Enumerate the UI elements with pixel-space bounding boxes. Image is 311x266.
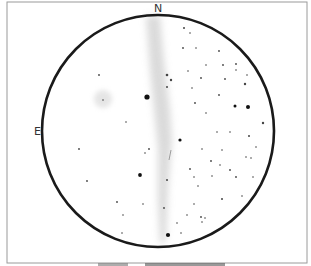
star xyxy=(211,175,213,177)
star xyxy=(125,121,127,123)
star xyxy=(250,157,252,159)
star xyxy=(121,232,123,234)
star xyxy=(144,94,149,99)
star xyxy=(138,173,142,177)
star xyxy=(229,169,231,171)
star xyxy=(246,105,250,109)
star xyxy=(166,86,168,88)
star xyxy=(189,32,191,34)
star xyxy=(235,176,237,178)
star xyxy=(234,105,237,108)
star xyxy=(245,156,247,158)
star xyxy=(222,64,224,66)
star xyxy=(219,164,221,166)
star xyxy=(182,47,184,49)
star xyxy=(195,47,197,49)
star xyxy=(116,201,118,203)
star xyxy=(122,214,124,216)
star xyxy=(98,74,100,76)
star xyxy=(201,221,203,223)
star xyxy=(170,79,172,81)
star xyxy=(197,185,199,187)
star xyxy=(78,148,80,150)
star xyxy=(144,152,146,154)
star xyxy=(262,122,264,124)
star xyxy=(218,50,220,52)
star xyxy=(193,203,195,205)
star xyxy=(166,233,170,237)
star xyxy=(148,148,150,150)
star xyxy=(235,69,237,71)
star xyxy=(224,78,226,80)
star xyxy=(166,74,169,77)
star xyxy=(255,146,257,148)
star xyxy=(221,198,223,200)
star xyxy=(241,195,243,197)
star xyxy=(166,179,168,181)
star xyxy=(205,112,207,114)
star xyxy=(229,131,231,133)
star xyxy=(142,203,144,205)
star xyxy=(163,207,165,209)
star xyxy=(252,176,254,178)
star xyxy=(221,149,223,151)
star xyxy=(183,27,185,29)
star xyxy=(204,217,206,219)
star xyxy=(235,63,237,65)
star xyxy=(102,99,104,101)
star xyxy=(187,70,189,72)
star xyxy=(205,64,207,66)
star xyxy=(246,74,248,76)
star xyxy=(216,131,218,133)
star xyxy=(194,102,196,104)
star xyxy=(210,160,212,162)
star xyxy=(200,216,202,218)
east-label: E xyxy=(34,126,41,137)
north-label: N xyxy=(154,3,162,14)
star xyxy=(180,232,182,234)
star xyxy=(244,83,246,85)
star xyxy=(193,176,195,178)
star xyxy=(176,222,178,224)
nebula-glow xyxy=(94,90,112,108)
star xyxy=(218,94,220,96)
star xyxy=(201,148,203,150)
star xyxy=(86,180,88,182)
star xyxy=(178,138,181,141)
star xyxy=(248,135,250,137)
star xyxy=(191,87,193,89)
star xyxy=(189,168,191,170)
star xyxy=(186,214,188,216)
star xyxy=(200,77,202,79)
eyepiece-sketch xyxy=(0,0,311,266)
